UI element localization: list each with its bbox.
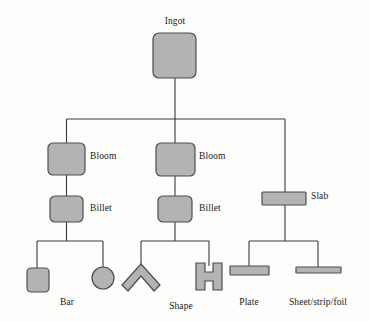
node-billet-left-box — [50, 196, 83, 222]
label-shape: Shape — [169, 302, 193, 312]
label-slab: Slab — [311, 192, 328, 202]
product-round-bar-shape — [92, 267, 114, 289]
flow-connector-graphics: .ln { stroke: #3a3a3a; stroke-width: 1.1… — [0, 0, 370, 322]
label-billet-mid: Billet — [199, 204, 221, 214]
label-plate: Plate — [239, 298, 259, 308]
node-billet-mid-box — [158, 196, 192, 222]
node-bloom-left-box — [48, 143, 85, 175]
ingot-product-flow-diagram: .ln { stroke: #3a3a3a; stroke-width: 1.1… — [0, 0, 370, 322]
product-plate-shape — [230, 266, 269, 275]
label-bloom-left: Bloom — [90, 152, 116, 162]
label-bloom-mid: Bloom — [199, 152, 225, 162]
node-bloom-mid-box — [156, 143, 195, 176]
product-square-bar-shape — [27, 268, 49, 292]
label-ingot: Ingot — [165, 17, 186, 27]
node-slab-box — [262, 192, 306, 205]
product-h-beam-shape — [196, 263, 222, 290]
label-bar: Bar — [60, 298, 74, 308]
label-billet-left: Billet — [90, 204, 112, 214]
product-sheet-shape — [296, 267, 341, 273]
node-shapes — [48, 33, 306, 222]
product-angle-shape — [122, 264, 160, 291]
product-shapes — [27, 263, 341, 292]
label-sheet-strip-foil: Sheet/strip/foil — [289, 298, 347, 308]
node-ingot-box — [153, 33, 196, 78]
